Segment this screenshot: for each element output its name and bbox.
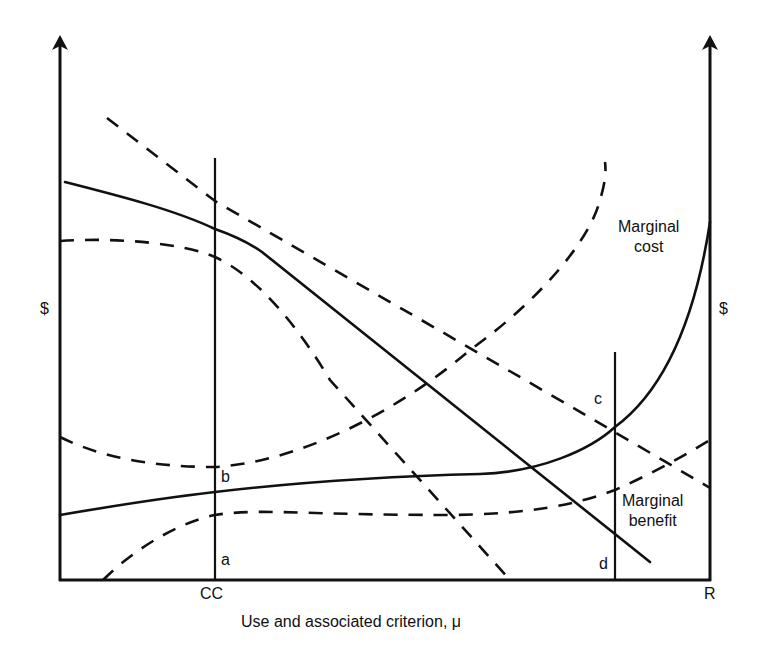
marginal-cost-label-line1: Marginal [618, 217, 679, 237]
marginal-benefit-upper-dashed-curve [107, 118, 710, 488]
point-label-b: b [221, 468, 230, 486]
marginal-cost-label: Marginal cost [618, 217, 679, 257]
marginal-benefit-label-line1: Marginal [622, 491, 683, 511]
marginal-benefit-lower-dashed-curve [60, 240, 510, 580]
left-y-axis-label: $ [40, 300, 49, 318]
point-label-d: d [599, 555, 608, 573]
marginal-benefit-label-line2: benefit [622, 511, 683, 531]
point-label-a: a [221, 551, 230, 569]
x-tick-r: R [704, 585, 716, 603]
x-tick-cc: CC [200, 585, 223, 603]
marginal-benefit-label: Marginal benefit [622, 491, 683, 531]
marginal-cost-curve [60, 222, 710, 515]
right-y-axis-label: $ [719, 300, 728, 318]
marginal-cost-label-line2: cost [618, 237, 679, 257]
diagram-canvas [0, 0, 766, 665]
marginal-cost-lower-dashed-curve [103, 440, 710, 580]
point-label-c: c [594, 390, 602, 408]
x-axis-title: Use and associated criterion, μ [241, 613, 461, 631]
marginal-cost-upper-dashed-curve [60, 162, 605, 467]
